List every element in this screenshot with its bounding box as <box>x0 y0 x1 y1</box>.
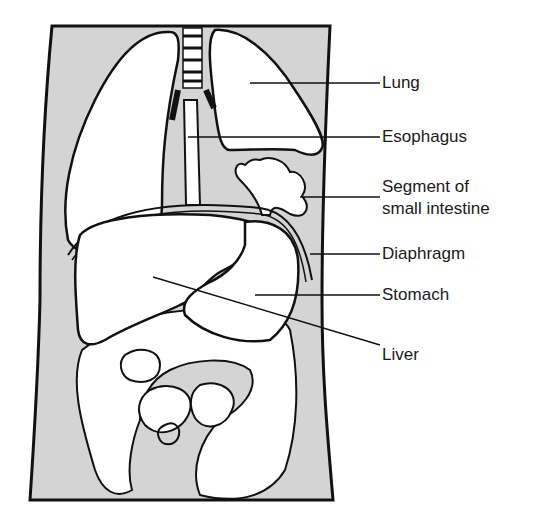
esophagus <box>184 100 200 205</box>
label-lung: Lung <box>382 73 420 93</box>
label-diaphragm: Diaphragm <box>382 244 465 264</box>
label-small-intestine-line1: Segment of <box>382 177 469 197</box>
label-esophagus: Esophagus <box>382 127 467 147</box>
label-stomach: Stomach <box>382 285 449 305</box>
label-liver: Liver <box>382 345 419 365</box>
label-small-intestine-line2: small intestine <box>382 199 490 219</box>
